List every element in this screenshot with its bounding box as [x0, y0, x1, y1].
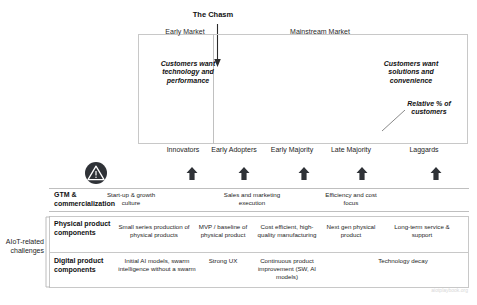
- cell-physical: MVP / baseline of physical product: [196, 223, 250, 239]
- segment-label: Early Majority: [266, 146, 318, 154]
- gtm-row-top-divider: [49, 188, 469, 189]
- relative-percent-callout: Relative % of customers: [398, 100, 460, 117]
- minimum-feature-set-label: Minimum Feature Set: [176, 117, 214, 131]
- row-label-physical-product-components: Physical product components: [54, 219, 114, 238]
- segment-up-arrow-icon: [238, 167, 250, 180]
- segment-up-arrow-icon: [356, 167, 368, 180]
- cell-digital: Technology decay: [372, 257, 434, 265]
- cell-gtm: Sales and marketing execution: [215, 191, 289, 207]
- segment-arrow-row: [138, 167, 468, 183]
- challenges-table-middle-divider: [49, 252, 469, 253]
- segment-up-arrow-icon: [298, 167, 310, 180]
- early-market-callout: Customers want technology and performanc…: [150, 60, 226, 85]
- row-label-digital-product-components: Digital product components: [54, 256, 114, 275]
- whole-product-solution-label: Whole Product / Solution: [222, 117, 270, 131]
- watermark: aiotplaybook.org: [404, 288, 468, 294]
- cell-digital: Strong UX: [200, 257, 246, 265]
- gtm-row-bottom-divider: [49, 211, 469, 212]
- chasm-title: The Chasm: [178, 11, 248, 20]
- segment-up-arrow-icon: [186, 167, 198, 180]
- mainstream-market-callout: Customers want solutions and convenience: [370, 60, 452, 85]
- callout-leader-line: [380, 110, 406, 132]
- segment-label: Laggards: [396, 146, 452, 154]
- warning-triangle-icon: [84, 161, 108, 185]
- cell-gtm: Start-up & growth culture: [100, 191, 162, 207]
- segment-label: Late Majority: [326, 146, 376, 154]
- cell-gtm: Efficiency and cost focus: [320, 191, 382, 207]
- adoption-curve-diagram: The Chasm Early Market Mainstream Market…: [0, 0, 477, 305]
- aiot-bracket: [44, 216, 50, 288]
- aiot-challenges-caption: AIoT-related challenges: [0, 238, 44, 256]
- segment-label: Early Adopters: [210, 146, 258, 154]
- cell-physical: Next gen physical product: [326, 223, 376, 239]
- cell-physical: Long-term service & support: [384, 223, 460, 239]
- segment-name-row: InnovatorsEarly AdoptersEarly MajorityLa…: [138, 146, 468, 168]
- cell-digital: Continuous product improvement (SW, AI m…: [252, 257, 322, 281]
- cell-physical: Cost efficient, high-quality manufacturi…: [256, 223, 318, 239]
- segment-up-arrow-icon: [430, 167, 442, 180]
- cell-physical: Small series production of physical prod…: [118, 223, 190, 239]
- cell-digital: Initial AI models, swarm intelligence wi…: [118, 257, 196, 273]
- segment-label: Innovators: [154, 146, 212, 154]
